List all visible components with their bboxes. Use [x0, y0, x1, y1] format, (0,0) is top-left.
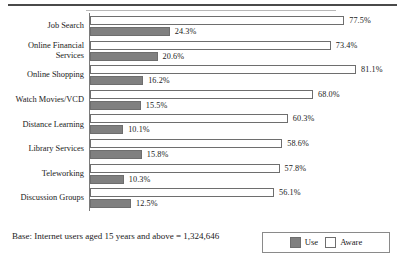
bar-value-label-aware: 81.1% [361, 65, 383, 74]
bar-use [90, 150, 142, 159]
chart-row: 77.5%24.3% [90, 16, 390, 38]
top-divider-primary [8, 4, 397, 6]
chart-row: 58.6%15.8% [90, 139, 390, 161]
bar-aware [90, 114, 288, 123]
chart-row: 81.1%16.2% [90, 65, 390, 87]
chart-container: 77.5%24.3%73.4%20.6%81.1%16.2%68.0%15.5%… [0, 0, 402, 261]
bar-use [90, 175, 124, 184]
legend-label-aware: Aware [340, 237, 362, 248]
legend-label-use: Use [305, 237, 318, 248]
bar-use [90, 76, 143, 85]
bar-aware [90, 139, 282, 148]
bar-use [90, 101, 141, 110]
bar-aware [90, 41, 331, 50]
legend-item-use: Use [290, 237, 318, 248]
bar-aware [90, 164, 280, 173]
bar-value-label-use: 10.3% [129, 175, 151, 184]
category-label: Online Financial Services [0, 41, 84, 60]
bar-value-label-aware: 73.4% [336, 41, 358, 50]
legend-item-aware: Aware [325, 237, 362, 248]
bar-value-label-aware: 57.8% [285, 164, 307, 173]
bar-value-label-use: 12.5% [136, 199, 158, 208]
bar-aware [90, 188, 274, 197]
bar-value-label-use: 20.6% [163, 52, 185, 61]
chart-row: 60.3%10.1% [90, 114, 390, 136]
top-divider-secondary [86, 10, 336, 11]
chart-legend: Use Aware [262, 232, 390, 253]
category-label: Job Search [0, 21, 84, 31]
chart-row: 57.8%10.3% [90, 164, 390, 186]
bar-aware [90, 90, 313, 99]
bar-value-label-aware: 60.3% [293, 114, 315, 123]
chart-row: 56.1%12.5% [90, 188, 390, 210]
bar-use [90, 27, 170, 36]
base-note: Base: Internet users aged 15 years and a… [12, 231, 219, 241]
bar-value-label-use: 16.2% [148, 76, 170, 85]
category-label: Teleworking [0, 169, 84, 179]
bar-aware [90, 65, 356, 74]
bar-aware [90, 16, 344, 25]
legend-swatch-use-icon [290, 237, 301, 248]
bar-value-label-aware: 68.0% [318, 90, 340, 99]
category-label: Watch Movies/VCD [0, 95, 84, 105]
bar-use [90, 125, 123, 134]
plot-area: 77.5%24.3%73.4%20.6%81.1%16.2%68.0%15.5%… [90, 13, 390, 211]
category-label: Library Services [0, 144, 84, 154]
bar-value-label-use: 15.8% [147, 150, 169, 159]
bar-value-label-use: 10.1% [128, 125, 150, 134]
bar-value-label-use: 15.5% [146, 101, 168, 110]
bar-value-label-aware: 56.1% [279, 188, 301, 197]
bar-value-label-aware: 58.6% [287, 139, 309, 148]
bar-use [90, 199, 131, 208]
bar-use [90, 52, 158, 61]
bar-value-label-use: 24.3% [175, 27, 197, 36]
chart-row: 73.4%20.6% [90, 41, 390, 63]
category-label: Distance Learning [0, 120, 84, 130]
category-label: Discussion Groups [0, 193, 84, 203]
chart-row: 68.0%15.5% [90, 90, 390, 112]
category-label: Online Shopping [0, 70, 84, 80]
legend-swatch-aware-icon [325, 237, 336, 248]
bar-value-label-aware: 77.5% [349, 16, 371, 25]
